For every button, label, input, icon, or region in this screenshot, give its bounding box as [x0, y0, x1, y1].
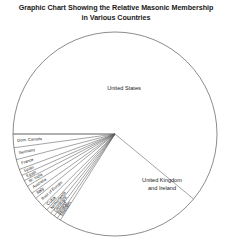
slice-label-united-kingdom-line1: United Kingdom: [142, 177, 182, 183]
chart-page: Graphic Chart Showing the Relative Mason…: [0, 0, 232, 250]
slice-label-united-kingdom-line2: and Ireland: [148, 185, 176, 191]
slice-label-united-states: United States: [107, 85, 141, 91]
pie-chart: United States United Kingdom and Ireland…: [0, 0, 232, 250]
